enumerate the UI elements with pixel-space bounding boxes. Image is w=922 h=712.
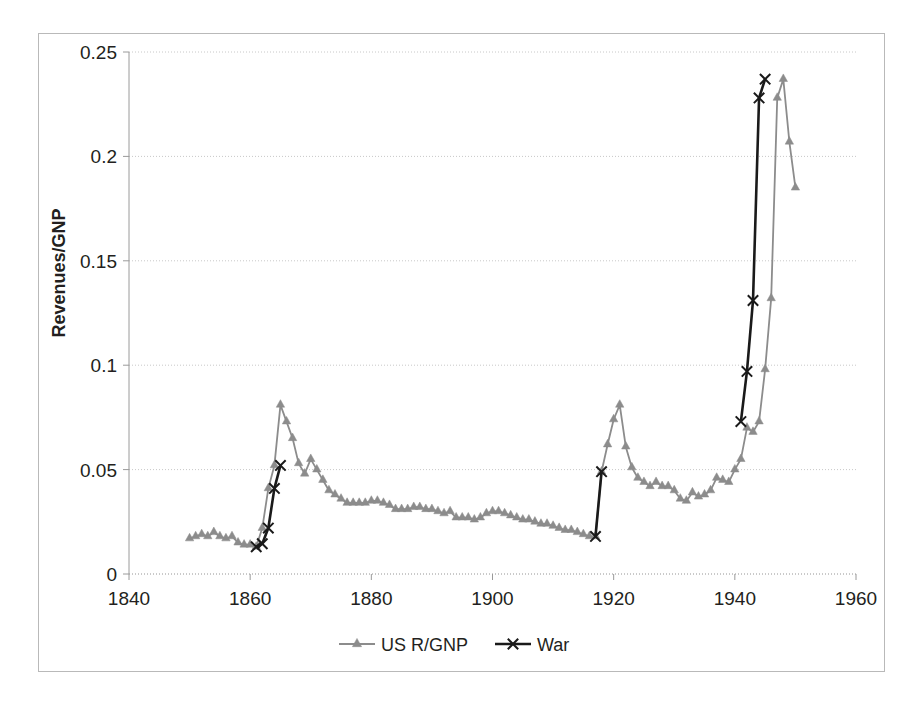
x-tick-label: 1900 bbox=[471, 588, 513, 609]
y-tick-label: 0 bbox=[106, 564, 117, 585]
x-tick-label: 1860 bbox=[229, 588, 271, 609]
marker-triangle bbox=[688, 487, 696, 495]
chart-figure: 00.050.10.150.20.25 18401860188019001920… bbox=[0, 0, 922, 712]
series-line-us-r-gnp bbox=[190, 79, 796, 547]
marker-triangle bbox=[428, 504, 436, 512]
marker-triangle bbox=[622, 441, 630, 449]
marker-triangle bbox=[294, 458, 302, 466]
marker-triangle bbox=[603, 439, 611, 447]
x-tick-label: 1940 bbox=[714, 588, 756, 609]
marker-triangle bbox=[755, 416, 763, 424]
y-axis-title-text: Revenues/GNP bbox=[49, 208, 69, 337]
chart-legend: US R/GNPWar bbox=[339, 635, 569, 655]
x-tick-label: 1880 bbox=[350, 588, 392, 609]
marker-triangle bbox=[567, 525, 575, 533]
marker-triangle bbox=[785, 137, 793, 145]
y-axis-title: Revenues/GNP bbox=[49, 208, 69, 337]
y-tick-label: 0.05 bbox=[80, 460, 117, 481]
y-tick-label: 0.2 bbox=[91, 146, 117, 167]
marker-triangle bbox=[737, 454, 745, 462]
x-tick-label: 1960 bbox=[835, 588, 877, 609]
gridlines-group bbox=[129, 52, 856, 574]
marker-triangle bbox=[616, 400, 624, 408]
x-tick-label: 1920 bbox=[593, 588, 635, 609]
marker-triangle bbox=[543, 519, 551, 527]
marker-triangle bbox=[525, 515, 533, 523]
legend-marker-triangle bbox=[352, 638, 361, 646]
x-tick-label: 1840 bbox=[108, 588, 150, 609]
marker-triangle bbox=[198, 529, 206, 537]
marker-triangle bbox=[288, 433, 296, 441]
marker-triangle bbox=[210, 527, 218, 535]
legend-label: War bbox=[537, 635, 569, 655]
marker-triangle bbox=[773, 93, 781, 101]
y-axis-ticks: 00.050.10.150.20.25 bbox=[80, 42, 129, 585]
y-tick-label: 0.1 bbox=[91, 355, 117, 376]
marker-triangle bbox=[791, 183, 799, 191]
marker-triangle bbox=[416, 502, 424, 510]
y-tick-label: 0.25 bbox=[80, 42, 117, 63]
marker-triangle bbox=[373, 496, 381, 504]
legend-label: US R/GNP bbox=[381, 635, 468, 655]
marker-triangle bbox=[664, 481, 672, 489]
marker-triangle bbox=[712, 473, 720, 481]
series-war bbox=[251, 74, 770, 552]
x-axis-ticks: 1840186018801900192019401960 bbox=[108, 574, 877, 609]
marker-triangle bbox=[282, 416, 290, 424]
chart-canvas: 00.050.10.150.20.25 18401860188019001920… bbox=[39, 34, 884, 671]
marker-triangle bbox=[307, 454, 315, 462]
marker-triangle bbox=[276, 400, 284, 408]
chart-frame: 00.050.10.150.20.25 18401860188019001920… bbox=[38, 33, 885, 672]
marker-triangle bbox=[446, 506, 454, 514]
marker-triangle bbox=[779, 74, 787, 82]
marker-triangle bbox=[609, 414, 617, 422]
marker-triangle bbox=[494, 506, 502, 514]
marker-triangle bbox=[228, 531, 236, 539]
y-tick-label: 0.15 bbox=[80, 251, 117, 272]
marker-triangle bbox=[767, 293, 775, 301]
marker-triangle bbox=[628, 462, 636, 470]
marker-triangle bbox=[464, 512, 472, 520]
marker-triangle bbox=[652, 477, 660, 485]
series-line-war bbox=[595, 472, 601, 537]
